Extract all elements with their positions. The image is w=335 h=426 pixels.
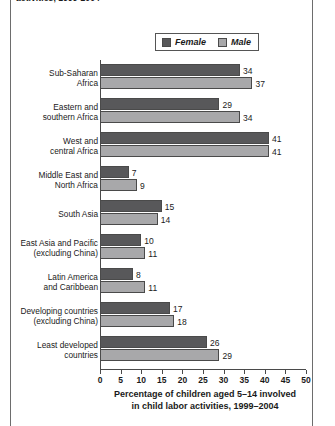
bar-male — [100, 281, 145, 293]
bar-male — [100, 111, 240, 123]
x-axis-tick — [162, 370, 163, 374]
bar-male — [100, 315, 174, 327]
bar-male — [100, 179, 137, 191]
x-axis-tick — [182, 370, 183, 374]
bar-value-label: 41 — [272, 134, 281, 144]
x-axis-tick-label: 25 — [193, 375, 213, 385]
x-axis-title-line: Percentage of children aged 5–14 involve… — [100, 389, 310, 401]
bar-female — [100, 132, 269, 144]
bar-value-label: 8 — [136, 270, 141, 280]
bar-female — [100, 268, 133, 280]
category-label: Middle East andNorth Africa — [14, 171, 98, 190]
category-label: Latin Americaand Caribbean — [14, 273, 98, 292]
x-axis-tick — [100, 370, 101, 374]
x-axis-tick — [141, 370, 142, 374]
x-axis-tick-label: 40 — [255, 375, 275, 385]
category-label: Developing countries(excluding China) — [14, 307, 98, 326]
bar-female — [100, 336, 207, 348]
bar-value-label: 10 — [144, 236, 153, 246]
bar-male — [100, 77, 252, 89]
bar-value-label: 7 — [132, 168, 137, 178]
x-axis-tick-label: 30 — [214, 375, 234, 385]
x-axis-tick — [224, 370, 225, 374]
bar-value-label: 37 — [255, 79, 264, 89]
x-axis-tick — [244, 370, 245, 374]
x-axis-tick — [203, 370, 204, 374]
category-label: Eastern andsouthern Africa — [14, 103, 98, 122]
bar-male — [100, 213, 158, 225]
x-axis-tick-label: 5 — [111, 375, 131, 385]
x-axis-tick-label: 20 — [172, 375, 192, 385]
category-label: South Asia — [14, 210, 98, 220]
x-axis-tick — [121, 370, 122, 374]
bar-chart: Sub-SaharanAfricaEastern andsouthern Afr… — [0, 0, 335, 426]
bar-value-label: 9 — [140, 181, 145, 191]
bar-female — [100, 200, 162, 212]
bar-female — [100, 234, 141, 246]
bar-value-label: 11 — [148, 249, 157, 259]
bar-male — [100, 247, 145, 259]
bar-value-label: 17 — [173, 304, 182, 314]
bar-value-label: 29 — [222, 351, 231, 361]
bar-female — [100, 302, 170, 314]
bar-value-label: 11 — [148, 283, 157, 293]
category-label: Least developedcountries — [14, 341, 98, 360]
bar-value-label: 15 — [165, 202, 174, 212]
bar-male — [100, 145, 269, 157]
category-label: West andcentral Africa — [14, 137, 98, 156]
x-axis-tick — [285, 370, 286, 374]
bar-value-label: 41 — [272, 147, 281, 157]
bar-female — [100, 166, 129, 178]
bar-value-label: 18 — [177, 317, 186, 327]
bar-value-label: 26 — [210, 338, 219, 348]
x-axis-title-line: in child labor activities, 1999–2004 — [100, 401, 310, 413]
category-label: East Asia and Pacific(excluding China) — [14, 239, 98, 258]
x-axis-tick-label: 45 — [275, 375, 295, 385]
bar-value-label: 34 — [243, 113, 252, 123]
bar-male — [100, 349, 219, 361]
x-axis-tick-label: 10 — [131, 375, 151, 385]
category-label: Sub-SaharanAfrica — [14, 69, 98, 88]
bar-value-label: 29 — [222, 100, 231, 110]
x-axis-tick — [306, 370, 307, 374]
x-axis-tick-label: 35 — [234, 375, 254, 385]
x-axis-tick-label: 50 — [296, 375, 316, 385]
x-axis-tick-label: 15 — [152, 375, 172, 385]
bar-female — [100, 64, 240, 76]
x-axis-tick — [265, 370, 266, 374]
category-axis-labels: Sub-SaharanAfricaEastern andsouthern Afr… — [14, 62, 98, 367]
x-axis-tick-label: 0 — [90, 375, 110, 385]
x-axis-title: Percentage of children aged 5–14 involve… — [100, 389, 310, 412]
bar-female — [100, 98, 219, 110]
bar-value-label: 14 — [161, 215, 170, 225]
bar-value-label: 34 — [243, 66, 252, 76]
